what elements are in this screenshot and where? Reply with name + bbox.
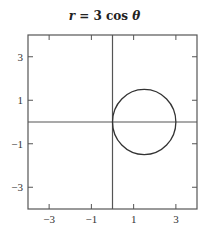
plot-area: −3−11331−1−3	[0, 0, 209, 237]
x-tick-label: 1	[131, 213, 137, 225]
y-tick-label: 1	[18, 94, 24, 106]
x-tick-label: 3	[173, 213, 179, 225]
x-tick-label: −1	[86, 213, 98, 225]
y-tick-label: −3	[11, 181, 23, 193]
y-tick-label: 3	[18, 51, 24, 63]
y-tick-label: −1	[11, 138, 23, 150]
x-tick-label: −3	[43, 213, 55, 225]
